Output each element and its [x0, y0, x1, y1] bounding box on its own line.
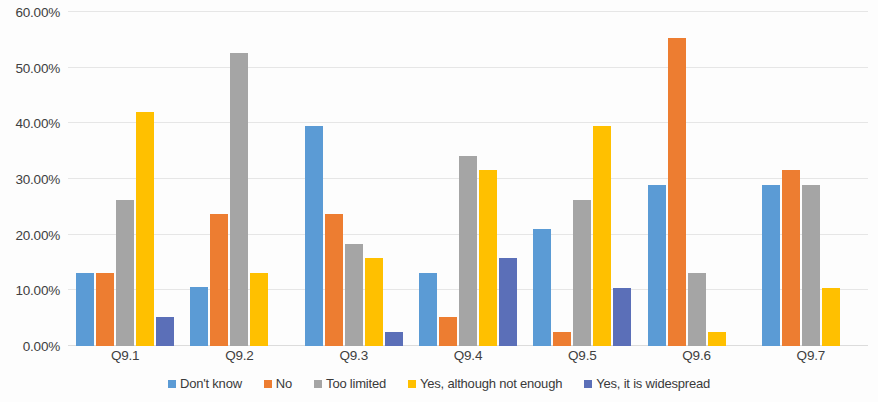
bar-group [754, 12, 868, 346]
bar [688, 273, 706, 346]
legend-item-label: Don't know [180, 376, 242, 391]
legend-swatch-icon [314, 380, 322, 388]
y-axis-tick-label: 30.00% [15, 172, 60, 187]
bar [116, 200, 134, 346]
bar-slot [156, 12, 174, 346]
bar-slot [365, 12, 383, 346]
legend: Don't knowNoToo limitedYes, although not… [0, 376, 878, 391]
y-axis-tick-label: 40.00% [15, 116, 60, 131]
x-axis: Q9.1Q9.2Q9.3Q9.4Q9.5Q9.6Q9.7 [68, 348, 868, 372]
bar-slot [668, 12, 686, 346]
bar-group [182, 12, 296, 346]
bar-chart: 0.00%10.00%20.00%30.00%40.00%50.00%60.00… [0, 0, 878, 402]
bar [230, 53, 248, 346]
bar [593, 126, 611, 346]
bar [553, 332, 571, 346]
bar [822, 288, 840, 346]
bar [156, 317, 174, 347]
x-axis-tick-label: Q9.1 [68, 348, 182, 372]
bar [648, 185, 666, 346]
bar-group [411, 12, 525, 346]
legend-swatch-icon [408, 380, 416, 388]
bar [573, 200, 591, 346]
bar-group [68, 12, 182, 346]
y-axis-tick-label: 10.00% [15, 283, 60, 298]
bar-slot [708, 12, 726, 346]
bar-slot [802, 12, 820, 346]
bar [499, 258, 517, 346]
legend-swatch-icon [168, 380, 176, 388]
bar-groups [68, 12, 868, 346]
legend-item[interactable]: Yes, although not enough [408, 376, 562, 391]
bar [439, 317, 457, 347]
bar [479, 170, 497, 346]
bar-group [525, 12, 639, 346]
x-axis-tick-label: Q9.4 [411, 348, 525, 372]
legend-item-label: Too limited [326, 376, 386, 391]
x-axis-tick-label: Q9.6 [639, 348, 753, 372]
bar-slot [190, 12, 208, 346]
legend-swatch-icon [584, 380, 592, 388]
bar-slot [116, 12, 134, 346]
bar-slot [210, 12, 228, 346]
x-axis-tick-label: Q9.2 [182, 348, 296, 372]
bar [708, 332, 726, 346]
bar [305, 126, 323, 346]
legend-item[interactable]: No [264, 376, 292, 391]
y-axis: 0.00%10.00%20.00%30.00%40.00%50.00%60.00… [0, 12, 64, 346]
bar [96, 273, 114, 346]
bar-slot [136, 12, 154, 346]
bar-slot [345, 12, 363, 346]
bar-slot [230, 12, 248, 346]
bar [385, 332, 403, 346]
bar-slot [782, 12, 800, 346]
legend-item-label: No [276, 376, 292, 391]
bar [802, 185, 820, 346]
bar-slot [593, 12, 611, 346]
legend-item-label: Yes, although not enough [420, 376, 562, 391]
x-axis-tick-label: Q9.3 [297, 348, 411, 372]
bar-slot [648, 12, 666, 346]
bar-slot [822, 12, 840, 346]
bar-slot [842, 12, 860, 346]
bar [325, 214, 343, 346]
bar [419, 273, 437, 346]
bar-slot [728, 12, 746, 346]
bar [345, 244, 363, 346]
y-axis-tick-label: 50.00% [15, 60, 60, 75]
y-axis-tick-label: 20.00% [15, 227, 60, 242]
bar-slot [553, 12, 571, 346]
bar-slot [325, 12, 343, 346]
bar-slot [533, 12, 551, 346]
bar [459, 156, 477, 346]
bar [365, 258, 383, 346]
bar-slot [459, 12, 477, 346]
x-axis-tick-label: Q9.7 [754, 348, 868, 372]
plot-area [68, 12, 868, 346]
bar-slot [688, 12, 706, 346]
legend-item-label: Yes, it is widespread [596, 376, 710, 391]
bar [533, 229, 551, 346]
legend-item[interactable]: Don't know [168, 376, 242, 391]
bar [76, 273, 94, 346]
bar-slot [613, 12, 631, 346]
bar-slot [499, 12, 517, 346]
bar-slot [250, 12, 268, 346]
bar-slot [762, 12, 780, 346]
bar [190, 287, 208, 346]
bar [250, 273, 268, 346]
bar-slot [305, 12, 323, 346]
bar-slot [573, 12, 591, 346]
bar [668, 38, 686, 346]
bar-group [297, 12, 411, 346]
bar [762, 185, 780, 346]
legend-swatch-icon [264, 380, 272, 388]
bar-slot [270, 12, 288, 346]
bar-group [639, 12, 753, 346]
legend-item[interactable]: Too limited [314, 376, 386, 391]
bar-slot [385, 12, 403, 346]
legend-item[interactable]: Yes, it is widespread [584, 376, 710, 391]
bar-slot [76, 12, 94, 346]
bar-slot [479, 12, 497, 346]
x-axis-tick-label: Q9.5 [525, 348, 639, 372]
